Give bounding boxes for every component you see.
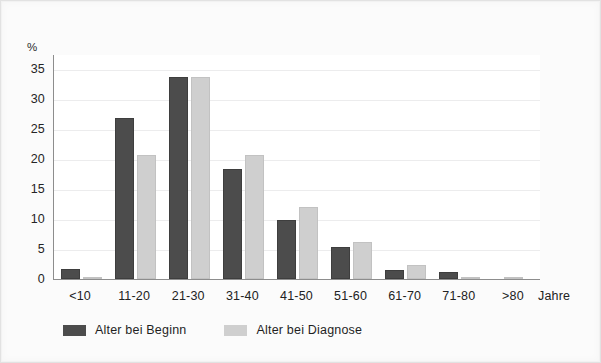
bar [504,277,523,279]
x-axis-tick-label: <10 [50,289,110,303]
y-axis-tick-label: 0 [9,272,45,286]
x-axis-unit-label: Jahre [538,289,570,303]
y-axis-tick-label: 35 [9,62,45,76]
bar [385,270,404,279]
bar [223,169,242,279]
bar-group [270,55,324,279]
bar [61,269,80,279]
bar-group [108,55,162,279]
plot-area [53,55,540,280]
legend-item-alter-bei-diagnose: Alter bei Diagnose [224,323,362,337]
x-axis-tick-label: 61-70 [375,289,435,303]
legend-swatch-icon [63,325,86,336]
bar-group [216,55,270,279]
legend-item-alter-bei-beginn: Alter bei Beginn [63,323,186,337]
y-axis-tick-label: 25 [9,122,45,136]
x-axis-tick-label: 51-60 [321,289,381,303]
bar-group [433,55,487,279]
x-axis-tick-label: 11-20 [104,289,164,303]
x-axis-tick-label: 41-50 [267,289,327,303]
bar [353,242,372,279]
bar [461,277,480,279]
bar [439,272,458,279]
bar [137,155,156,279]
y-axis-tick-label: 5 [9,242,45,256]
bar-group [487,55,541,279]
bar [115,118,134,279]
x-axis-tick-label: >80 [483,289,543,303]
chart-figure: % 35 30 25 20 15 10 5 0 <1011-2021-3031-… [0,0,601,363]
bar-group [54,55,108,279]
y-axis-tick-label: 10 [9,212,45,226]
legend-item-label: Alter bei Beginn [95,323,186,337]
x-axis-tick-label: 71-80 [429,289,489,303]
bar-group [162,55,216,279]
y-axis-unit-label: % [27,41,37,53]
bar [277,220,296,279]
x-axis-tick-label: 31-40 [212,289,272,303]
y-axis-tick-label: 15 [9,182,45,196]
chart-legend: Alter bei Beginn Alter bei Diagnose [63,323,362,337]
legend-item-label: Alter bei Diagnose [256,323,362,337]
bar [331,247,350,279]
bar [191,77,210,279]
bar-group [379,55,433,279]
legend-swatch-icon [224,325,247,336]
bar [407,265,426,279]
y-axis-tick-label: 20 [9,152,45,166]
y-axis-tick-label: 30 [9,92,45,106]
bar-group [325,55,379,279]
bar [299,207,318,279]
bar [169,77,188,279]
bar [245,155,264,279]
bar [83,277,102,279]
x-axis-tick-label: 21-30 [158,289,218,303]
